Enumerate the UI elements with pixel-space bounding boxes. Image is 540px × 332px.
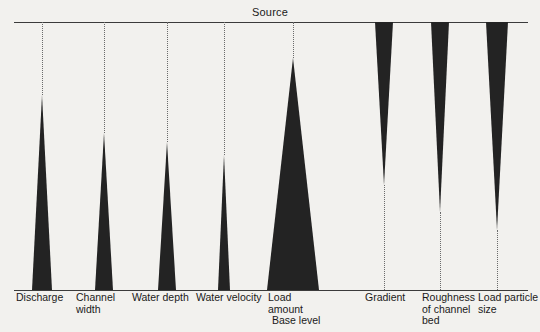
- source-axis-label: Source: [0, 6, 540, 18]
- wedge-4: [216, 155, 232, 290]
- guide-line-1: [42, 22, 44, 95]
- guide-line-6: [384, 185, 386, 290]
- variable-label-1: Discharge: [16, 292, 63, 304]
- wedge-1: [30, 95, 54, 290]
- variable-label-5: Load amount: [268, 292, 303, 315]
- variable-label-7: Roughness of channel bed: [422, 292, 475, 327]
- wedge-8: [484, 22, 510, 230]
- variable-label-6: Gradient: [365, 292, 405, 304]
- river-variables-diagram: Source DischargeChannel widthWater depth…: [0, 0, 540, 332]
- guide-line-8: [497, 230, 499, 290]
- variable-label-2: Channel width: [76, 292, 115, 315]
- variable-label-4: Water velocity: [196, 292, 262, 304]
- wedge-7: [429, 22, 451, 212]
- wedge-5: [265, 58, 321, 290]
- variable-label-3: Water depth: [132, 292, 189, 304]
- guide-line-7: [440, 212, 442, 290]
- wedge-3: [156, 142, 178, 290]
- variable-label-8: Load particle size: [478, 292, 538, 315]
- wedge-2: [93, 133, 115, 290]
- guide-line-2: [104, 22, 106, 133]
- wedge-6: [373, 22, 395, 185]
- guide-line-5: [293, 22, 295, 58]
- guide-line-3: [167, 22, 169, 142]
- base-level-label: Base level: [272, 315, 320, 327]
- guide-line-4: [224, 22, 226, 155]
